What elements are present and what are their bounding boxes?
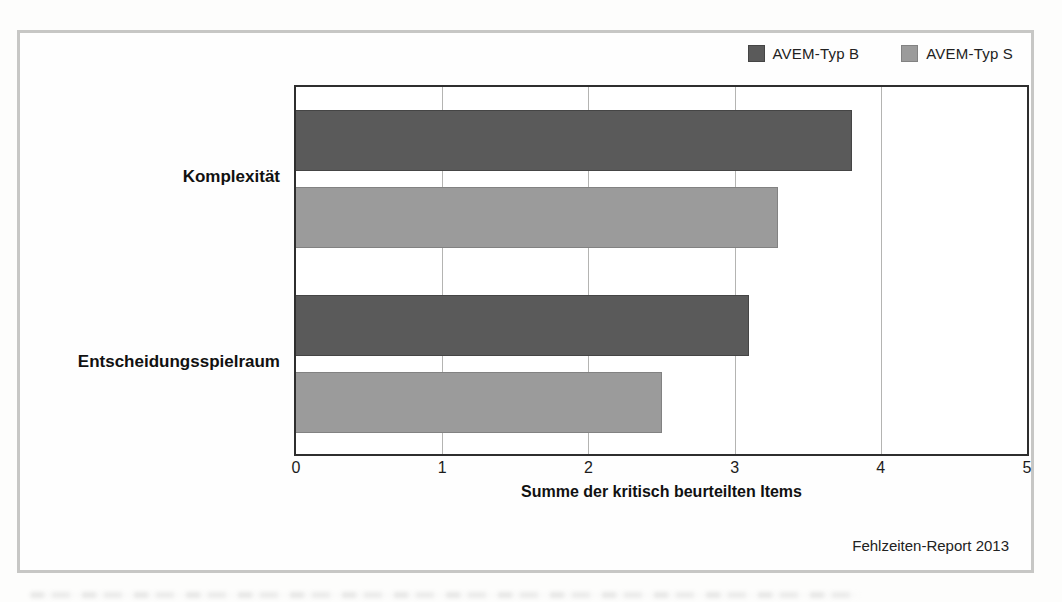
x-tick-3: 3 (730, 459, 739, 477)
bar-entscheidungsspielraum-avem-typ-s (296, 372, 662, 433)
chart-card: AVEM-Typ BAVEM-Typ S KomplexitätEntschei… (17, 30, 1034, 573)
cutoff-caption-artifact (30, 592, 860, 598)
bar-komplexitaet-avem-typ-s (296, 187, 778, 248)
plot-area (294, 85, 1029, 456)
legend-swatch-avem-typ-s (901, 45, 918, 62)
category-label-entscheidungsspielraum: Entscheidungsspielraum (30, 347, 280, 377)
bar-komplexitaet-avem-typ-b (296, 110, 852, 171)
legend-swatch-avem-typ-b (748, 45, 765, 62)
x-tick-0: 0 (292, 459, 301, 477)
legend: AVEM-Typ BAVEM-Typ S (748, 45, 1014, 62)
x-tick-1: 1 (438, 459, 447, 477)
x-axis-label: Summe der kritisch beurteilten Items (294, 483, 1029, 501)
legend-item-avem-typ-b: AVEM-Typ B (748, 45, 860, 62)
source-label: Fehlzeiten-Report 2013 (852, 537, 1009, 554)
category-label-komplexitaet: Komplexität (30, 162, 280, 192)
legend-label-avem-typ-b: AVEM-Typ B (773, 45, 860, 62)
legend-label-avem-typ-s: AVEM-Typ S (926, 45, 1013, 62)
x-tick-4: 4 (876, 459, 885, 477)
x-tick-2: 2 (584, 459, 593, 477)
bar-entscheidungsspielraum-avem-typ-b (296, 295, 749, 356)
x-axis-ticks: 012345 (294, 459, 1029, 481)
legend-item-avem-typ-s: AVEM-Typ S (901, 45, 1013, 62)
gridline-4 (881, 87, 882, 454)
x-tick-5: 5 (1023, 459, 1032, 477)
